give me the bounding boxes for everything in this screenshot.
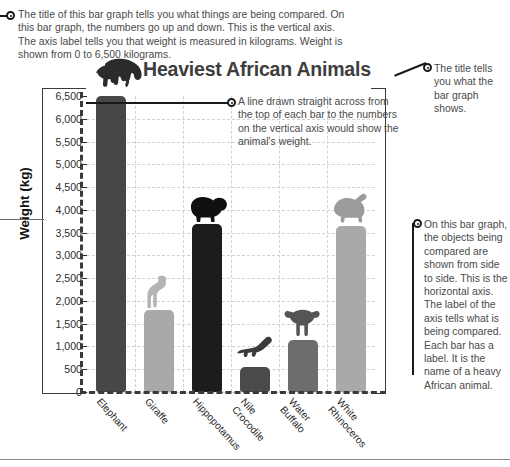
y-axis-title: Weight (kg)	[17, 149, 32, 259]
y-axis-tick-labels: 6,5006,0005,5005,0004,5004,0003,5003,000…	[38, 96, 82, 392]
water-buffalo-silhouette	[280, 304, 326, 338]
x-axis-label-line: Hippopotamus	[190, 396, 243, 453]
horizontal-axis-highlight	[80, 391, 386, 394]
x-axis-label-nile-crocodile: NileCrocodile	[230, 396, 276, 444]
bar-giraffe[interactable]	[144, 310, 174, 392]
x-axis-label-line: Elephant	[94, 396, 130, 434]
chart-title: Heaviest African Animals	[143, 58, 371, 81]
chart-page: The title of this bar graph tells you wh…	[0, 0, 510, 467]
y-axis-tick-label: 6,500	[40, 90, 82, 102]
bar-hippopotamus[interactable]	[192, 224, 222, 392]
y-axis-tick-label: 4,500	[40, 181, 82, 193]
annotation-vertical-axis: The title of this bar graph tells you wh…	[18, 8, 348, 62]
leader-line-haxis-note	[412, 223, 414, 375]
y-axis-tick-label: 1,500	[40, 318, 82, 330]
x-axis-label-water-buffalo: WaterBuffalo	[278, 396, 316, 435]
y-axis-tick-label: 2,500	[40, 272, 82, 284]
callout-bullet-top	[6, 11, 15, 20]
y-axis-tick-label: 6,000	[40, 113, 82, 125]
bar-group[interactable]	[96, 96, 126, 392]
y-axis-tick-label: 1,000	[40, 340, 82, 352]
gridline-vertical	[135, 96, 136, 392]
x-axis-label-giraffe: Giraffe	[142, 396, 171, 426]
x-axis-label-elephant: Elephant	[94, 396, 130, 434]
leader-line-title-note	[394, 62, 426, 76]
y-axis-tick-label: 3,000	[40, 249, 82, 261]
x-axis-tick-labels: ElephantGiraffeHippopotamusNileCrocodile…	[87, 396, 375, 466]
bar-white-rhinoceros[interactable]	[336, 226, 366, 392]
bar-nile-crocodile[interactable]	[240, 367, 270, 392]
annotation-horizontal-axis: On this bar graph, the objects being com…	[424, 218, 508, 392]
leader-line-bar-note	[86, 102, 228, 104]
white-rhinoceros-silhouette	[328, 190, 374, 224]
bar-group[interactable]	[192, 96, 222, 392]
bar-water-buffalo[interactable]	[288, 340, 318, 392]
bar-group[interactable]	[144, 96, 174, 392]
x-axis-label-hippopotamus: Hippopotamus	[190, 396, 243, 453]
x-axis-label-line: Giraffe	[142, 396, 171, 426]
y-axis-tick-label: 4,000	[40, 204, 82, 216]
frame-top-rule	[42, 88, 86, 89]
x-axis-label-white-rhinoceros: WhiteRhinoceros	[326, 396, 378, 450]
hippopotamus-silhouette	[184, 188, 230, 222]
annotation-bar-reading: A line drawn straight across from the to…	[238, 95, 406, 149]
nile-crocodile-silhouette	[232, 331, 278, 365]
y-axis-tick-label: 5,000	[40, 158, 82, 170]
annotation-title: The title tells you what the bar graph s…	[434, 62, 506, 116]
y-axis-tick-label: 2,000	[40, 295, 82, 307]
elephant-silhouette	[88, 60, 134, 94]
y-axis-tick-label: 5,500	[40, 136, 82, 148]
giraffe-silhouette	[136, 274, 182, 308]
y-axis-tick-label: 0	[40, 386, 82, 398]
gridline-vertical	[183, 96, 184, 392]
y-axis-tick-label: 500	[40, 363, 82, 375]
y-axis-tick-label: 3,500	[40, 227, 82, 239]
callout-bullet-title	[423, 63, 432, 72]
vertical-axis-highlight	[80, 92, 83, 394]
callout-bullet-haxis-note	[413, 219, 422, 228]
frame-right-top-rule	[371, 88, 386, 89]
bar-elephant[interactable]	[96, 96, 126, 392]
callout-bullet-bar-note	[227, 98, 236, 107]
